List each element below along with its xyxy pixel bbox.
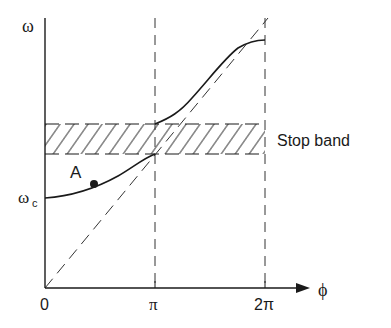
lower-branch-curve (45, 154, 155, 198)
x-axis-arrow-icon (296, 283, 310, 293)
x-tick-0: 0 (40, 296, 49, 313)
point-a-label: A (70, 163, 82, 182)
x-axis-label: ϕ (318, 280, 327, 300)
point-a-marker (90, 180, 98, 188)
omega-c-label: ω (18, 188, 29, 207)
stop-band-label: Stop band (277, 132, 350, 149)
y-axis-label: ω (22, 16, 34, 36)
x-tick-2pi: 2π (254, 296, 274, 313)
upper-branch-curve (155, 40, 265, 124)
dispersion-diagram: A ω ϕ 0 π 2π ω c Stop band (0, 0, 391, 328)
x-tick-pi: π (149, 295, 158, 314)
omega-c-subscript: c (32, 197, 38, 209)
